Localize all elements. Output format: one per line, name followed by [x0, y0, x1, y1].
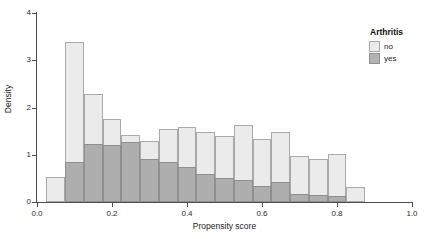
- legend-items: noyes: [369, 40, 443, 64]
- x-tick-label-wrap: 0.2: [92, 209, 132, 218]
- y-tick-label: 4: [7, 9, 31, 17]
- legend-item-yes[interactable]: yes: [369, 52, 443, 64]
- y-axis-line: [36, 12, 37, 203]
- legend-item-label: no: [384, 42, 393, 51]
- x-tick-label: 0.4: [167, 209, 207, 218]
- y-tick-label-wrap: 4: [0, 9, 31, 17]
- y-tick-mark: [32, 13, 36, 14]
- legend: Arthritis noyes: [369, 27, 443, 64]
- y-tick-label: 0: [7, 198, 31, 206]
- histogram-bar-yes: [140, 159, 159, 202]
- y-tick-mark: [32, 155, 36, 156]
- histogram-bar-yes: [103, 145, 122, 202]
- histogram-bar-yes: [65, 162, 84, 202]
- legend-title: Arthritis: [369, 27, 443, 38]
- x-tick-mark: [187, 203, 188, 207]
- legend-swatch-icon: [369, 41, 380, 52]
- x-tick-mark: [262, 203, 263, 207]
- x-tick-mark: [412, 203, 413, 207]
- y-tick-mark: [32, 202, 36, 203]
- y-tick-label-wrap: 3: [0, 56, 31, 64]
- legend-item-label: yes: [384, 54, 396, 63]
- histogram-bar-yes: [253, 186, 272, 202]
- histogram-bar-yes: [215, 178, 234, 202]
- histogram-bar-no: [328, 154, 347, 202]
- x-axis-line: [36, 202, 413, 203]
- x-tick-label-wrap: 0.4: [167, 209, 207, 218]
- y-tick-label-wrap: 1: [0, 151, 31, 159]
- histogram-bar-yes: [159, 162, 178, 202]
- y-axis-title: Density: [3, 69, 13, 129]
- histogram-figure: 01234 0.00.20.40.60.81.0 Propensity scor…: [0, 0, 445, 239]
- histogram-bar-yes: [290, 194, 309, 202]
- legend-item-no[interactable]: no: [369, 40, 443, 52]
- x-tick-label-wrap: 1.0: [392, 209, 432, 218]
- y-tick-label: 3: [7, 56, 31, 64]
- x-tick-label: 0.8: [317, 209, 357, 218]
- y-tick-label: 1: [7, 151, 31, 159]
- x-axis-title: Propensity score: [37, 221, 412, 231]
- x-tick-mark: [37, 203, 38, 207]
- x-tick-label: 0.2: [92, 209, 132, 218]
- histogram-bar-yes: [271, 182, 290, 202]
- x-tick-label: 0.0: [17, 209, 57, 218]
- y-tick-label-wrap: 0: [0, 198, 31, 206]
- histogram-bar-yes: [234, 180, 253, 202]
- histogram-bar-yes: [178, 167, 197, 202]
- x-tick-mark: [337, 203, 338, 207]
- histogram-bar-no: [346, 187, 365, 202]
- histogram-bar-yes: [121, 142, 140, 202]
- histogram-bar-no: [46, 177, 65, 202]
- histogram-bar-yes: [196, 174, 215, 202]
- x-tick-label-wrap: 0.6: [242, 209, 282, 218]
- y-tick-mark: [32, 108, 36, 109]
- x-tick-mark: [112, 203, 113, 207]
- plot-area: [37, 13, 412, 202]
- y-tick-mark: [32, 60, 36, 61]
- histogram-bars: [37, 13, 412, 202]
- histogram-bar-yes: [84, 144, 103, 202]
- x-tick-label: 0.6: [242, 209, 282, 218]
- x-tick-label-wrap: 0.0: [17, 209, 57, 218]
- legend-swatch-icon: [369, 53, 380, 64]
- x-tick-label-wrap: 0.8: [317, 209, 357, 218]
- x-tick-label: 1.0: [392, 209, 432, 218]
- histogram-bar-yes: [309, 195, 328, 202]
